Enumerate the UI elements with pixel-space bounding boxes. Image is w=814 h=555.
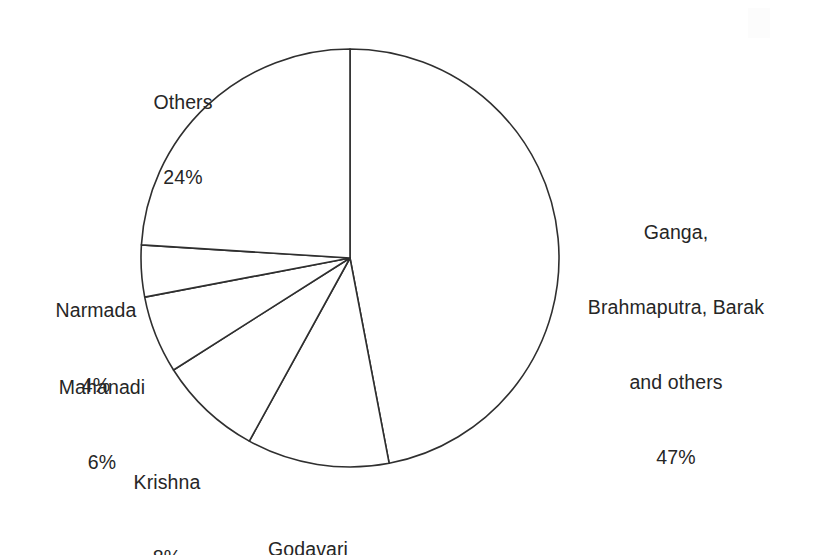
slice-label-ganga-line1: Ganga,: [552, 220, 800, 245]
slice-label-others-name: Others: [128, 90, 238, 115]
slice-label-krishna-value: 8%: [106, 545, 228, 555]
slice-label-krishna-name: Krishna: [106, 470, 228, 495]
slice-label-ganga-line3: and others: [552, 370, 800, 395]
pie-chart-figure: Others 24% Ganga, Brahmaputra, Barak and…: [0, 0, 814, 555]
scan-artifact: [748, 8, 770, 38]
slice-label-narmada-name: Narmada: [30, 298, 162, 323]
slice-label-krishna: Krishna 8%: [106, 420, 228, 555]
slice-label-godavari: Godavari 11%: [244, 487, 372, 555]
slice-label-others-value: 24%: [128, 165, 238, 190]
slice-label-mahanadi-name: Mahanadi: [34, 375, 170, 400]
slice-label-ganga: Ganga, Brahmaputra, Barak and others 47%: [552, 170, 800, 520]
slice-label-ganga-line2: Brahmaputra, Barak: [552, 295, 800, 320]
slice-label-others: Others 24%: [128, 40, 238, 240]
pie-slice-ganga[interactable]: [350, 49, 559, 463]
slice-label-ganga-value: 47%: [552, 445, 800, 470]
slice-label-godavari-name: Godavari: [244, 537, 372, 555]
